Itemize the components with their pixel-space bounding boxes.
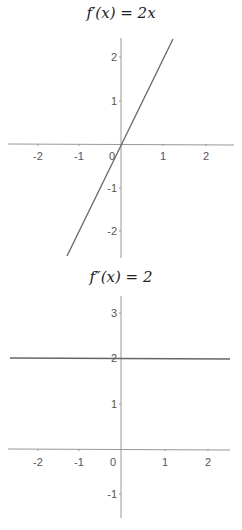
- tick: 2: [111, 51, 117, 63]
- tick: 1: [162, 456, 168, 468]
- tick: -1: [74, 456, 84, 468]
- tick: 2: [203, 150, 209, 162]
- tick: 1: [160, 150, 166, 162]
- tick: 0: [110, 456, 116, 468]
- tick: 1: [111, 95, 117, 107]
- tick: -1: [107, 488, 117, 500]
- tick: 2: [205, 456, 211, 468]
- tick: -2: [33, 150, 43, 162]
- tick: 1: [111, 398, 117, 410]
- chart1-line: [67, 39, 173, 256]
- tick: 2: [111, 352, 117, 364]
- tick: -1: [74, 150, 84, 162]
- chart2-line: [10, 358, 230, 359]
- tick: 3: [111, 307, 117, 319]
- chart2-plot: -2 -1 0 1 2 3 2 1 -1: [8, 296, 230, 518]
- tick: 0: [109, 150, 115, 162]
- tick: -1: [107, 182, 117, 194]
- tick: -2: [33, 456, 43, 468]
- charts-canvas: -2 -1 0 1 2 2 1 -1 -2 -2 -1 0 1 2 3 2 1 …: [0, 0, 242, 530]
- chart2-x-axis: [8, 449, 230, 450]
- tick: -2: [107, 225, 117, 237]
- chart1-plot: -2 -1 0 1 2 2 1 -1 -2: [8, 38, 234, 258]
